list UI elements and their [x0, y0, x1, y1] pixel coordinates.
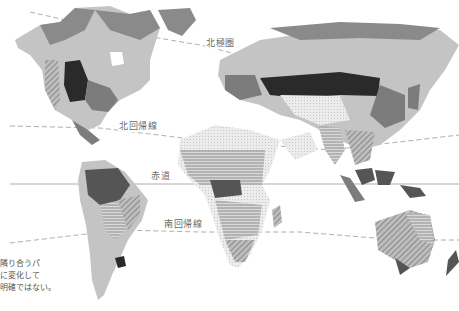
greenland: [158, 8, 196, 36]
africa: [178, 125, 318, 268]
equator-label: 赤道: [150, 171, 171, 182]
tropic-of-capricorn-label: 南回帰線: [163, 219, 203, 230]
southeast-asia: [340, 168, 426, 202]
south-america: [78, 160, 148, 300]
map-caption: 隣り合うパ に変化して 明確ではない。: [0, 258, 56, 294]
caption-line-1: 隣り合うパ: [0, 258, 56, 270]
new-zealand: [446, 250, 459, 276]
caption-line-3: 明確ではない。: [0, 282, 56, 294]
arctic-circle-label: 北極圏: [205, 38, 236, 49]
tropic-of-cancer-label: 北回帰線: [118, 121, 158, 132]
caption-line-2: に変化して: [0, 270, 56, 282]
australia: [375, 210, 435, 275]
